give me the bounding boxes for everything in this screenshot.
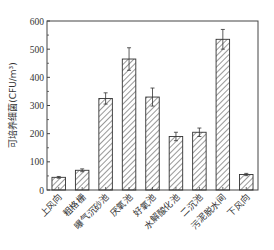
y-tick-label: 0: [39, 186, 44, 196]
x-tick-label: 下风向: [225, 192, 252, 219]
y-tick-label: 200: [30, 129, 45, 139]
y-tick-label: 100: [30, 157, 45, 167]
bar: [169, 132, 183, 190]
y-tick-label: 600: [30, 17, 45, 27]
bar: [193, 128, 207, 190]
x-axis: 上风向粗格栅曝气沉砂池厌氧池好氧池水解酸化池二沉池污泥脱水间下风向: [37, 187, 251, 231]
bar: [146, 88, 160, 190]
y-axis-label: 可培养细菌(CFU/m³): [7, 62, 18, 147]
bar: [122, 48, 136, 190]
bar: [216, 29, 230, 190]
bar-chart: 0100200300400500600 上风向粗格栅曝气沉砂池厌氧池好氧池水解酸…: [0, 0, 274, 250]
x-tick-label: 上风向: [37, 192, 64, 219]
bar: [75, 169, 89, 190]
y-tick-label: 300: [30, 101, 45, 111]
x-tick-label: 厌氧池: [108, 192, 135, 219]
y-tick-label: 400: [30, 73, 45, 83]
plot-area: [47, 21, 258, 190]
bar: [99, 93, 113, 190]
y-tick-label: 500: [30, 45, 45, 55]
